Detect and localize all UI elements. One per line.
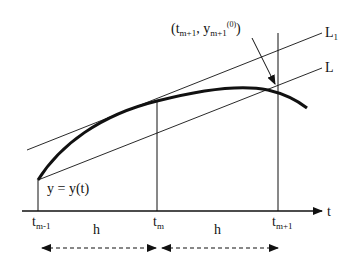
- tick-label-tm+1: tm+1: [272, 214, 292, 231]
- line-L: [38, 68, 322, 180]
- curve-label: y = y(t): [47, 181, 89, 197]
- step-label-h-2: h: [214, 222, 221, 237]
- label-L1: L1: [325, 25, 338, 42]
- tick-label-tm: tm: [153, 214, 164, 231]
- solution-curve: [38, 88, 307, 180]
- step-label-h-1: h: [93, 222, 100, 237]
- axis-label-t: t: [327, 204, 331, 219]
- label-L: L: [325, 60, 334, 75]
- annotation-arrow: [252, 38, 275, 84]
- tick-label-tm-1: tm-1: [32, 214, 50, 231]
- predicted-point-label: (tm+1, ym+1(0)): [171, 20, 241, 38]
- predictor-diagram: t L1 L y = y(t) (tm+1, ym+1(0)) tm-1 tm …: [0, 0, 357, 258]
